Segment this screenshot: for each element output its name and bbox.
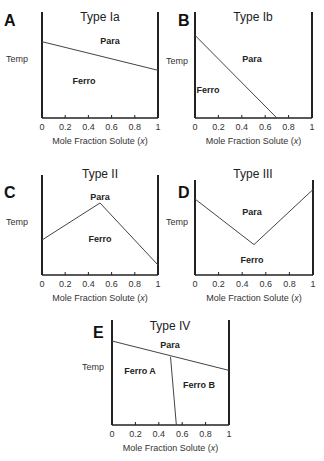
x-tick-label: 0.2 <box>129 429 142 439</box>
x-axis-label: Mole Fraction Solute (x) <box>52 136 148 146</box>
y-axis-label: Temp <box>82 362 104 372</box>
phase-boundary-line <box>171 357 177 425</box>
panel-c: 00.20.40.60.81Mole Fraction Solute (x)CT… <box>4 167 161 303</box>
panel-d: 00.20.40.60.81Mole Fraction Solute (x)DT… <box>166 167 316 303</box>
panel-letter: C <box>4 184 16 201</box>
x-tick-label: 0.8 <box>129 122 142 132</box>
panel-title: Type III <box>233 167 272 181</box>
panel-title: Type II <box>82 167 118 181</box>
x-tick-label: 0.4 <box>82 279 95 289</box>
x-tick-label: 0.8 <box>282 122 295 132</box>
panel-title: Type Ia <box>80 10 120 24</box>
x-tick-label: 1 <box>155 122 160 132</box>
x-tick-label: 0.4 <box>153 429 166 439</box>
panel-letter: E <box>93 324 104 341</box>
x-tick-label: 0.6 <box>105 122 118 132</box>
y-axis-label: Temp <box>6 217 28 227</box>
x-tick-label: 0.2 <box>212 122 225 132</box>
region-label-para: Para <box>100 36 121 46</box>
x-axis-label: Mole Fraction Solute (x) <box>123 443 219 453</box>
region-label-ferro: Ferro <box>196 85 220 95</box>
x-tick-label: 0.2 <box>59 122 72 132</box>
x-tick-label: 0.4 <box>236 279 249 289</box>
panel-letter: B <box>178 12 190 29</box>
y-axis-label: Temp <box>6 54 28 64</box>
x-tick-label: 0 <box>39 279 44 289</box>
region-label-para: Para <box>242 207 263 217</box>
x-axis-label: Mole Fraction Solute (x) <box>52 293 148 303</box>
x-tick-label: 0 <box>192 279 197 289</box>
x-tick-label: 0.6 <box>259 122 272 132</box>
x-tick-label: 0.4 <box>236 122 249 132</box>
x-tick-label: 0.4 <box>82 122 95 132</box>
panel-title: Type Ib <box>233 10 273 24</box>
x-tick-label: 1 <box>155 279 160 289</box>
x-tick-label: 0 <box>39 122 44 132</box>
x-tick-label: 1 <box>226 429 231 439</box>
x-tick-label: 0 <box>192 122 197 132</box>
x-tick-label: 0.8 <box>283 279 296 289</box>
y-axis-label: Temp <box>166 56 188 66</box>
region-label-ferro-b: Ferro B <box>183 380 216 390</box>
x-tick-label: 1 <box>309 122 314 132</box>
x-tick-label: 0.8 <box>199 429 212 439</box>
panel-title: Type IV <box>150 319 191 333</box>
x-axis-label: Mole Fraction Solute (x) <box>206 293 302 303</box>
region-label-ferro: Ferro <box>88 234 112 244</box>
phase-boundary-line <box>195 35 277 118</box>
region-label-ferro: Ferro <box>240 255 264 265</box>
phase-boundary-line <box>195 190 313 245</box>
region-label-ferro-a: Ferro A <box>124 366 156 376</box>
phase-diagram-figure: 00.20.40.60.81Mole Fraction Solute (x)AT… <box>0 0 324 461</box>
x-tick-label: 0.6 <box>105 279 118 289</box>
x-tick-label: 1 <box>310 279 315 289</box>
region-label-para: Para <box>160 340 181 350</box>
panel-letter: A <box>4 12 16 29</box>
region-label-ferro: Ferro <box>72 76 96 86</box>
x-axis-label: Mole Fraction Solute (x) <box>206 136 302 146</box>
region-label-para: Para <box>90 192 111 202</box>
x-tick-label: 0.6 <box>260 279 273 289</box>
x-tick-label: 0.6 <box>176 429 189 439</box>
panel-a: 00.20.40.60.81Mole Fraction Solute (x)AT… <box>4 10 161 146</box>
panel-e: 00.20.40.60.81Mole Fraction Solute (x)ET… <box>82 319 232 453</box>
panel-letter: D <box>178 184 190 201</box>
panel-b: 00.20.40.60.81Mole Fraction Solute (x)BT… <box>166 10 315 146</box>
x-tick-label: 0.2 <box>59 279 72 289</box>
x-tick-label: 0 <box>109 429 114 439</box>
region-label-para: Para <box>242 54 263 64</box>
x-tick-label: 0.8 <box>129 279 142 289</box>
y-axis-label: Temp <box>166 217 188 227</box>
x-tick-label: 0.2 <box>212 279 225 289</box>
